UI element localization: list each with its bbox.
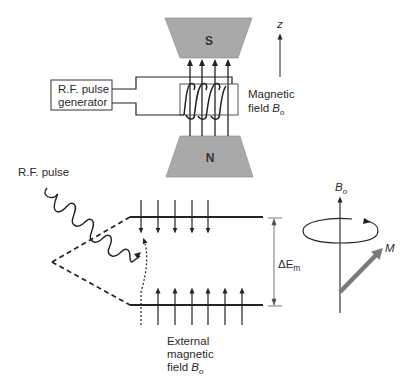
rf-pulse-label: R.F. pulse <box>18 166 69 178</box>
transition-path <box>52 217 130 305</box>
upper-level-spins <box>141 200 208 231</box>
nmr-diagram: S N z R <box>0 0 415 390</box>
lower-level-spins <box>158 290 242 325</box>
energy-level-diagram: R.F. pulse <box>18 166 300 376</box>
generator-label-line2: generator <box>58 96 107 108</box>
rf-pulse-generator: R.F. pulse generator <box>51 80 112 110</box>
spin-flip-arrow <box>141 240 147 325</box>
magnetization-label: M <box>385 242 395 254</box>
south-pole-label: S <box>205 34 213 48</box>
b0-axis-label: Bo <box>335 181 348 196</box>
external-field-line2: magnetic <box>167 348 214 360</box>
generator-label-line1: R.F. pulse <box>58 83 109 95</box>
rotation-arrow-icon <box>363 218 371 224</box>
energy-gap-label: ΔEm <box>278 258 300 273</box>
external-field-line3: field Bo <box>167 361 204 376</box>
magnetic-field-label: Magnetic field Bo <box>248 88 295 117</box>
magnetization-vector <box>340 253 378 292</box>
z-axis-label: z <box>276 18 283 30</box>
north-pole-label: N <box>206 151 215 165</box>
field-label-line1: Magnetic <box>248 88 295 100</box>
external-field-line1: External <box>167 335 209 347</box>
field-label-line2: field Bo <box>248 102 285 117</box>
coil-wires <box>112 77 232 115</box>
precession-diagram: Bo M <box>303 181 395 313</box>
rf-wave <box>45 188 140 262</box>
